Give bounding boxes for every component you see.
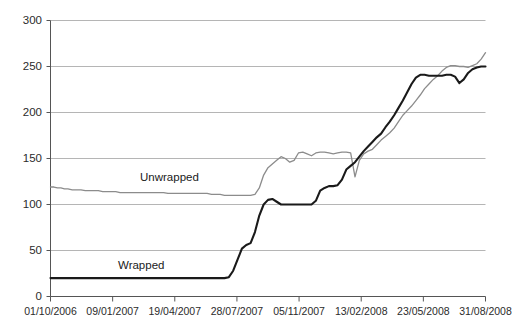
gridlines xyxy=(51,21,486,251)
x-tick-label: 31/08/2008 xyxy=(446,306,516,317)
series-annotation-unwrapped: Unwrapped xyxy=(140,171,199,183)
y-tick-label: 300 xyxy=(2,15,42,27)
y-tick-label: 100 xyxy=(2,199,42,211)
series-line-wrapped xyxy=(51,67,486,279)
series-annotation-wrapped: Wrapped xyxy=(118,259,164,271)
data-series xyxy=(51,53,486,278)
y-tick-label: 250 xyxy=(2,61,42,73)
y-tick-label: 200 xyxy=(2,107,42,119)
y-tick-label: 50 xyxy=(2,245,42,257)
y-tick-label: 0 xyxy=(2,291,42,303)
axis-ticks xyxy=(47,21,486,302)
y-tick-label: 150 xyxy=(2,153,42,165)
